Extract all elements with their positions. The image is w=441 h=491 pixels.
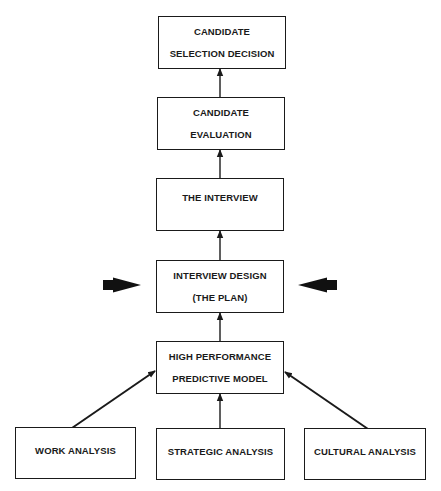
- node-label-line: CANDIDATE: [194, 27, 250, 37]
- node-label-line: HIGH PERFORMANCE: [169, 352, 271, 362]
- node-label-line: PREDICTIVE MODEL: [172, 374, 268, 384]
- connector-layer: [0, 0, 441, 491]
- emphasis-arrow-right-icon: [298, 278, 337, 293]
- flowchart-canvas: CANDIDATE SELECTION DECISION CANDIDATE E…: [0, 0, 441, 491]
- node-work-analysis: WORK ANALYSIS: [15, 427, 136, 479]
- emphasis-arrow-left-icon: [103, 278, 141, 293]
- arrow-cultural-to-model: [285, 372, 368, 429]
- node-cultural-analysis: CULTURAL ANALYSIS: [304, 428, 426, 480]
- node-strategic-analysis: STRATEGIC ANALYSIS: [156, 428, 285, 480]
- node-label-line: EVALUATION: [190, 130, 251, 140]
- node-label-line: CULTURAL ANALYSIS: [314, 447, 416, 457]
- node-label-line: THE INTERVIEW: [182, 193, 258, 203]
- node-label-line: CANDIDATE: [193, 108, 249, 118]
- node-label-line: WORK ANALYSIS: [35, 446, 116, 456]
- node-candidate-evaluation: CANDIDATE EVALUATION: [157, 97, 285, 150]
- node-the-interview: THE INTERVIEW: [156, 178, 284, 231]
- node-label-line: (THE PLAN): [193, 293, 248, 303]
- node-candidate-selection-decision: CANDIDATE SELECTION DECISION: [158, 16, 286, 69]
- node-label-line: INTERVIEW DESIGN: [173, 271, 266, 281]
- node-high-performance-predictive-model: HIGH PERFORMANCE PREDICTIVE MODEL: [156, 341, 284, 394]
- node-label-line: STRATEGIC ANALYSIS: [168, 447, 273, 457]
- arrow-work-to-model: [72, 371, 155, 428]
- node-interview-design: INTERVIEW DESIGN (THE PLAN): [156, 260, 284, 313]
- node-label-line: SELECTION DECISION: [170, 49, 275, 59]
